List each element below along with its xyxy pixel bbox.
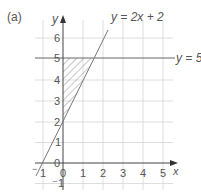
y-tick-3: 3 xyxy=(54,96,60,107)
x-tick-4: 4 xyxy=(140,168,146,179)
y-tick-6: 6 xyxy=(54,33,60,44)
y-tick-1: 1 xyxy=(55,137,61,148)
y-tick-5: 5 xyxy=(54,53,60,64)
y-axis-label: y xyxy=(52,13,58,25)
graph xyxy=(0,0,201,193)
line-y-equals-2x-plus-2 xyxy=(36,30,108,176)
x-tick-2: 2 xyxy=(100,168,106,179)
line-label-y-2x-2: y = 2x + 2 xyxy=(111,11,164,23)
y-tick-4: 4 xyxy=(54,75,60,86)
y-tick-2: 2 xyxy=(54,117,60,128)
x-tick-neg1: 1 xyxy=(40,168,46,179)
x-tick-0: 0 xyxy=(60,168,66,179)
x-tick-3: 3 xyxy=(120,168,126,179)
x-tick-1: 1 xyxy=(80,168,86,179)
x-axis-label: x xyxy=(173,166,179,177)
y-tick-neg1: ⁻1 xyxy=(52,178,64,189)
x-tick-5: 5 xyxy=(160,168,166,179)
y-axis-arrow xyxy=(60,15,66,23)
line-label-y-5: y = 5 xyxy=(176,52,201,64)
x-tick-neg1-sign: − xyxy=(32,165,37,174)
